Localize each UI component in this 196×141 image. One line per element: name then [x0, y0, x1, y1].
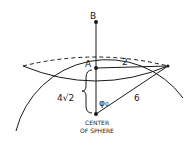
label-radius-2: 2: [122, 57, 128, 67]
rim-point-dot: [167, 65, 170, 68]
label-a: A: [85, 59, 92, 69]
point-a-dot: [94, 66, 98, 70]
label-center-2: OF SPHERE: [80, 127, 114, 134]
center-dot: [94, 112, 98, 116]
height-brace: [82, 70, 92, 113]
sphere-diagram: B A 2 6 4√2 φ₀ CENTER OF SPHERE: [0, 0, 196, 141]
label-height: 4√2: [57, 93, 74, 103]
label-angle: φ₀: [99, 98, 109, 108]
label-radius-6: 6: [134, 93, 140, 103]
label-b: B: [90, 11, 96, 21]
cap-radius-line: [96, 66, 168, 68]
label-center-1: CENTER: [85, 119, 109, 126]
